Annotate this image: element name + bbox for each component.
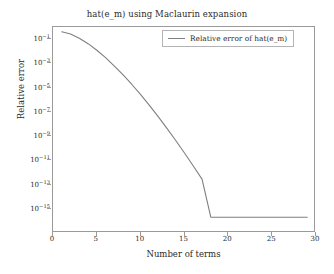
x-tick-label: 5 xyxy=(94,235,98,243)
y-tick-mark xyxy=(47,38,51,39)
x-tick-label: 30 xyxy=(311,235,320,243)
x-tick-mark xyxy=(140,232,141,236)
legend-line-swatch xyxy=(168,38,185,39)
x-tick-mark xyxy=(52,232,53,236)
x-axis-label: Number of terms xyxy=(52,249,315,259)
y-tick-mark xyxy=(47,208,51,209)
y-tick-mark xyxy=(47,111,51,112)
chart-figure: hat(e_m) using Maclaurin expansion Relat… xyxy=(0,0,334,274)
chart-legend: Relative error of hat(e_m) xyxy=(162,30,294,47)
x-tick-mark xyxy=(227,232,228,236)
chart-title: hat(e_m) using Maclaurin expansion xyxy=(0,9,334,19)
x-tick-label: 0 xyxy=(50,235,54,243)
data-plot xyxy=(53,27,316,233)
plot-area xyxy=(52,26,315,232)
x-tick-label: 20 xyxy=(223,235,232,243)
y-tick-mark xyxy=(47,87,51,88)
x-tick-label: 15 xyxy=(179,235,188,243)
y-axis-tick-labels: 10−110−310−510−710−910−1110−1310−15 xyxy=(0,26,50,232)
x-tick-mark xyxy=(96,232,97,236)
y-tick-mark xyxy=(47,184,51,185)
legend-label: Relative error of hat(e_m) xyxy=(190,34,287,43)
series-line-relative-error xyxy=(62,32,307,217)
x-tick-label: 25 xyxy=(267,235,276,243)
x-tick-label: 10 xyxy=(135,235,144,243)
y-tick-mark xyxy=(47,62,51,63)
y-tick-mark xyxy=(47,135,51,136)
x-tick-mark xyxy=(184,232,185,236)
x-tick-mark xyxy=(315,232,316,236)
y-tick-mark xyxy=(47,159,51,160)
x-tick-mark xyxy=(271,232,272,236)
